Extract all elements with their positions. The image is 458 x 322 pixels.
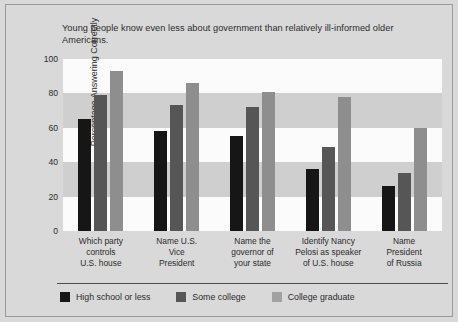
legend-swatch-icon bbox=[272, 292, 282, 302]
legend-item[interactable]: Some college bbox=[176, 292, 245, 302]
x-axis-category-label: Which partycontrolsU.S. house bbox=[63, 236, 139, 270]
bar[interactable] bbox=[246, 107, 259, 231]
chart-legend: High school or lessSome collegeCollege g… bbox=[60, 292, 450, 302]
x-axis-label-line: Vice bbox=[139, 247, 215, 258]
x-axis-label-line: of Russia bbox=[366, 258, 442, 269]
legend-swatch-icon bbox=[176, 292, 186, 302]
x-axis-label-line: Name the bbox=[215, 236, 291, 247]
x-axis-label-line: governor of bbox=[215, 247, 291, 258]
x-axis-label-line: Name bbox=[366, 236, 442, 247]
bar-group bbox=[290, 59, 366, 231]
x-axis-label-line: President bbox=[139, 258, 215, 269]
y-axis-tick-label: 40 bbox=[48, 157, 58, 167]
bar[interactable] bbox=[110, 71, 123, 231]
x-axis-label-line: U.S. house bbox=[63, 258, 139, 269]
x-axis-label-line: controls bbox=[63, 247, 139, 258]
x-axis-category-label: Name thegovernor ofyour state bbox=[215, 236, 291, 270]
y-axis-tick-label: 20 bbox=[48, 192, 58, 202]
plot-area: 020406080100 Percentage Answering Correc… bbox=[63, 59, 442, 231]
bar-group bbox=[366, 59, 442, 231]
bar[interactable] bbox=[414, 128, 427, 231]
bar[interactable] bbox=[230, 136, 243, 231]
chart-figure: Young people know even less about govern… bbox=[0, 0, 458, 322]
y-axis-tick-label: 100 bbox=[44, 54, 58, 64]
bar-groups bbox=[63, 59, 442, 231]
bar[interactable] bbox=[306, 169, 319, 231]
legend-item[interactable]: High school or less bbox=[60, 292, 150, 302]
bar-group bbox=[63, 59, 139, 231]
bar-group bbox=[139, 59, 215, 231]
bar[interactable] bbox=[262, 92, 275, 231]
legend-label: Some college bbox=[192, 292, 245, 302]
x-axis-label-line: Identify Nancy bbox=[290, 236, 366, 247]
x-axis-label-line: Which party bbox=[63, 236, 139, 247]
bar[interactable] bbox=[398, 173, 411, 231]
x-axis-label-line: Name U.S. bbox=[139, 236, 215, 247]
x-axis-category-label: NamePresidentof Russia bbox=[366, 236, 442, 270]
bar[interactable] bbox=[154, 131, 167, 231]
x-axis-label-line: your state bbox=[215, 258, 291, 269]
y-axis-tick-label: 80 bbox=[48, 88, 58, 98]
x-axis-label-line: Pelosi as speaker bbox=[290, 247, 366, 258]
y-axis-tick-label: 60 bbox=[48, 123, 58, 133]
bar[interactable] bbox=[382, 186, 395, 231]
legend-label: High school or less bbox=[76, 292, 150, 302]
x-axis-category-label: Name U.S.VicePresident bbox=[139, 236, 215, 270]
bar[interactable] bbox=[338, 97, 351, 231]
bar[interactable] bbox=[94, 95, 107, 231]
legend-divider bbox=[57, 283, 448, 284]
bar[interactable] bbox=[78, 119, 91, 231]
bar[interactable] bbox=[170, 105, 183, 231]
legend-label: College graduate bbox=[288, 292, 355, 302]
legend-item[interactable]: College graduate bbox=[272, 292, 355, 302]
bar[interactable] bbox=[322, 147, 335, 231]
x-axis-labels: Which partycontrolsU.S. houseName U.S.Vi… bbox=[63, 236, 442, 270]
x-axis-label-line: President bbox=[366, 247, 442, 258]
x-axis-label-line: of U.S. house bbox=[290, 258, 366, 269]
bar[interactable] bbox=[186, 83, 199, 231]
legend-swatch-icon bbox=[60, 292, 70, 302]
x-axis-category-label: Identify NancyPelosi as speakerof U.S. h… bbox=[290, 236, 366, 270]
bar-group bbox=[215, 59, 291, 231]
chart-title: Young people know even less about govern… bbox=[62, 22, 442, 47]
y-axis-tick-label: 0 bbox=[53, 226, 58, 236]
